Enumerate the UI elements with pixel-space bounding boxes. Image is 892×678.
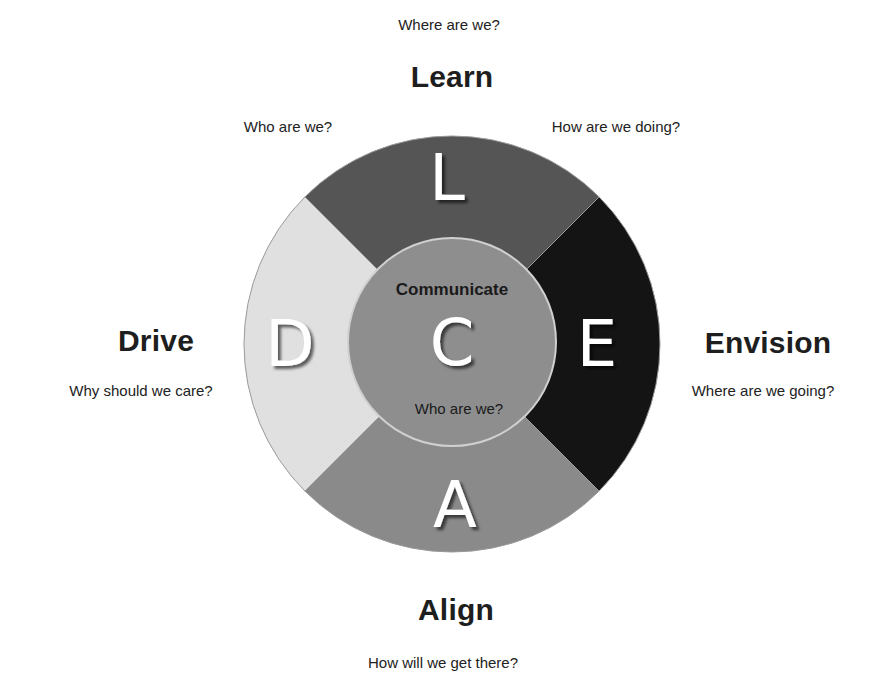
- segment-letter-learn: L: [429, 141, 465, 215]
- ledac-wheel: Communicate C Who are we? LEAD: [0, 0, 892, 678]
- segment-letter-align: A: [433, 468, 477, 542]
- segment-letter-envision: E: [577, 307, 617, 381]
- center-title: Communicate: [396, 280, 508, 299]
- segment-letter-drive: D: [265, 307, 314, 381]
- center-question: Who are we?: [415, 400, 503, 417]
- center-letter: C: [430, 306, 475, 380]
